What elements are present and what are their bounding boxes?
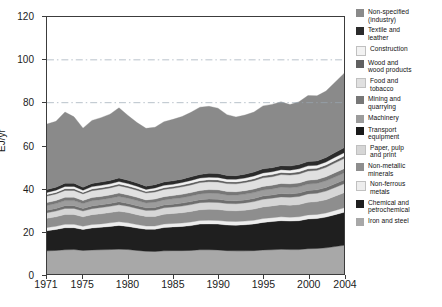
legend-item-label: Iron and steel	[368, 217, 409, 225]
legend-item-label: Textile andleather	[368, 26, 400, 41]
legend-swatch-icon	[356, 46, 366, 56]
legend-item-label-line2: metals	[370, 188, 390, 195]
x-tick-label: 1975	[71, 278, 94, 290]
legend-item[interactable]: Paper, pulpand print	[356, 144, 442, 159]
x-tick-label: 2000	[297, 278, 320, 290]
legend-swatch-icon	[356, 145, 366, 155]
y-tick-label: 120	[0, 11, 34, 22]
legend-item[interactable]: Chemical andpetrochemical	[356, 199, 442, 214]
chart-figure: EJ/yr 020406080100120 197119751980198519…	[0, 0, 442, 307]
legend-swatch-icon	[356, 115, 364, 123]
legend-item-label: Transportequipment	[368, 126, 399, 141]
legend-swatch-icon	[356, 181, 366, 191]
legend-swatch-icon	[356, 200, 364, 208]
x-tick-label: 1985	[161, 278, 184, 290]
legend-item[interactable]: Non-specified(industry)	[356, 8, 442, 23]
y-tick-label: 100	[0, 54, 34, 65]
legend-item-label: Chemical andpetrochemical	[368, 199, 410, 214]
x-tick-mark	[263, 275, 264, 279]
legend-item[interactable]: Machinery	[356, 114, 442, 123]
legend-swatch-icon	[356, 127, 364, 135]
legend-swatch-icon	[356, 9, 364, 17]
legend-item-label-line2: tobacco	[370, 85, 393, 92]
legend-item-label: Construction	[370, 45, 408, 53]
legend-swatch-icon	[356, 60, 364, 68]
chart-legend: Non-specified(industry)Textile andleathe…	[356, 8, 442, 229]
x-tick-mark	[345, 275, 346, 279]
legend-swatch-icon	[356, 96, 364, 104]
x-tick-label: 1990	[206, 278, 229, 290]
legend-item-label-line2: and print	[370, 151, 396, 158]
legend-item[interactable]: Non-metallicminerals	[356, 162, 442, 177]
plot-area	[46, 16, 345, 275]
legend-item-label: Machinery	[368, 114, 399, 122]
legend-item-label: Food andtobacco	[370, 77, 398, 92]
legend-item[interactable]: Construction	[356, 45, 442, 56]
legend-swatch-icon	[356, 163, 364, 171]
x-tick-mark	[46, 275, 47, 279]
legend-item-label-line2: minerals	[368, 170, 393, 177]
x-tick-label: 1971	[34, 278, 57, 290]
x-tick-label: 1995	[252, 278, 275, 290]
legend-item-label-line2: equipment	[368, 133, 399, 140]
x-tick-mark	[173, 275, 174, 279]
legend-swatch-icon	[356, 78, 366, 88]
x-tick-mark	[82, 275, 83, 279]
legend-swatch-icon	[356, 27, 364, 35]
legend-item[interactable]: Wood andwood products	[356, 59, 442, 74]
y-tick-label: 40	[0, 183, 34, 194]
y-tick-label: 0	[0, 270, 34, 281]
legend-item-label-line2: petrochemical	[368, 206, 410, 213]
legend-item-label-line2: wood products	[368, 66, 412, 73]
legend-item-label-line2: quarrying	[368, 103, 396, 110]
x-tick-mark	[309, 275, 310, 279]
legend-item-label: Wood andwood products	[368, 59, 412, 74]
x-tick-label: 1980	[116, 278, 139, 290]
y-tick-label: 60	[0, 140, 34, 151]
legend-item[interactable]: Iron and steel	[356, 217, 442, 226]
legend-item-label: Non-metallicminerals	[368, 162, 405, 177]
legend-item-label: Paper, pulpand print	[370, 144, 404, 159]
legend-item[interactable]: Transportequipment	[356, 126, 442, 141]
legend-item[interactable]: Food andtobacco	[356, 77, 442, 92]
y-tick-label: 80	[0, 97, 34, 108]
legend-item-label: Non-specified(industry)	[368, 8, 409, 23]
stacked-area-chart	[47, 17, 344, 274]
legend-swatch-icon	[356, 218, 364, 226]
x-tick-label: 2004	[333, 278, 356, 290]
legend-item-label: Mining andquarrying	[368, 95, 401, 110]
x-tick-mark	[218, 275, 219, 279]
legend-item-label-line2: leather	[368, 34, 389, 41]
legend-item[interactable]: Non-ferrousmetals	[356, 180, 442, 195]
x-tick-mark	[128, 275, 129, 279]
legend-item-label-line2: (industry)	[368, 16, 396, 23]
legend-item[interactable]: Textile andleather	[356, 26, 442, 41]
legend-item[interactable]: Mining andquarrying	[356, 95, 442, 110]
y-tick-label: 20	[0, 226, 34, 237]
legend-item-label: Non-ferrousmetals	[370, 180, 405, 195]
